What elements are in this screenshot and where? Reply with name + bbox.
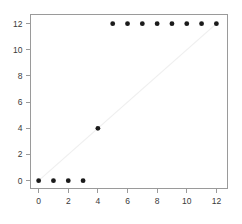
y-tick-label: 10 [13,45,23,55]
x-tick-label: 4 [96,196,101,206]
data-point [184,21,189,26]
data-point [95,126,100,131]
data-point [81,178,86,183]
y-axis-ticks [26,24,31,181]
data-point [170,21,175,26]
y-tick-label: 0 [18,176,23,186]
x-tick-label: 12 [212,196,222,206]
data-point [199,21,204,26]
identity-reference-line [39,24,217,181]
y-tick-label: 2 [18,149,23,159]
x-tick-label: 2 [66,196,71,206]
x-tick-label: 0 [36,196,41,206]
data-point [110,21,115,26]
chart-figure: 024681012 024681012 [0,0,242,224]
data-point [125,21,130,26]
scatter-plot: 024681012 024681012 [0,0,242,224]
x-tick-label: 10 [182,196,192,206]
x-tick-label: 8 [155,196,160,206]
data-point [36,178,41,183]
y-tick-label: 12 [13,19,23,29]
data-point [155,21,160,26]
data-point [214,21,219,26]
y-tick-label: 4 [18,123,23,133]
y-tick-label: 8 [18,71,23,81]
x-axis-ticks [39,189,217,194]
y-axis-tick-labels: 024681012 [13,19,23,186]
x-axis-tick-labels: 024681012 [36,196,221,206]
y-tick-label: 6 [18,97,23,107]
identity-reference-line [39,24,217,181]
data-point [140,21,145,26]
x-tick-label: 6 [125,196,130,206]
data-point [66,178,71,183]
data-point [51,178,56,183]
